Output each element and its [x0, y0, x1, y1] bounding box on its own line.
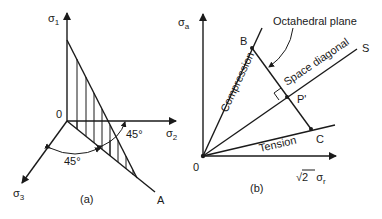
- origin-dot: [201, 154, 205, 158]
- compression-label: Compression: [218, 50, 256, 114]
- octahedral-plane-label: Octahedral plane: [273, 15, 357, 27]
- point-S-label: S: [362, 42, 369, 54]
- point-B-label: B: [240, 35, 247, 47]
- origin-label-a: 0: [56, 108, 62, 120]
- sigma2-label: σ2: [166, 127, 178, 142]
- origin-label-b: 0: [193, 161, 199, 173]
- octahedral-plane-arrow: [269, 28, 293, 67]
- caption-b: (b): [250, 182, 263, 194]
- angle-label-right: 45°: [126, 128, 143, 140]
- sigma-a-label: σa: [178, 16, 190, 31]
- point-C: [309, 127, 313, 131]
- figure-b: σa √2σr 0 B C P' S Octahedral plane Comp…: [178, 14, 369, 194]
- angle-label-lower: 45°: [64, 155, 81, 167]
- sigma-r-label: √2σr: [296, 171, 326, 186]
- sigma1-label: σ1: [48, 12, 60, 27]
- point-P: [285, 95, 289, 99]
- figure-a: σ1 σ2 σ3 0 A 45° 45° (a): [13, 12, 178, 206]
- angle-arc-right: [102, 122, 125, 146]
- tension-label: Tension: [258, 134, 298, 154]
- point-P-label: P': [297, 93, 306, 105]
- caption-a: (a): [80, 193, 93, 205]
- point-A-label: A: [157, 194, 165, 206]
- octahedral-plane-trace: [252, 48, 311, 129]
- right-angle-marker: [274, 88, 281, 100]
- point-C-label: C: [316, 133, 324, 145]
- space-diagonal-label: Space diagonal: [281, 35, 351, 87]
- diagram-canvas: σ1 σ2 σ3 0 A 45° 45° (a) σa √2σr 0: [0, 0, 382, 219]
- angle-arc-lower: [50, 148, 100, 154]
- point-B: [250, 46, 254, 50]
- sigma3-label: σ3: [13, 187, 25, 202]
